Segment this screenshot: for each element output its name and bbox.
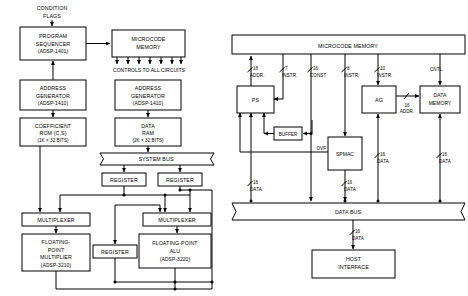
register-c-label: REGISTER <box>101 249 129 255</box>
slash-data16-dm <box>437 153 442 158</box>
ag-left-line3: (ADSP-1410) <box>38 100 69 106</box>
block-diagram-svg: CONDITION FLAGS PROGRAM SEQUENCER (ADSP-… <box>0 0 468 296</box>
junction-datamem-databus <box>439 200 442 203</box>
fp-mult-line1: FLOATING- <box>42 239 71 245</box>
bus-width-const16: 16 <box>313 66 319 71</box>
junction-ps-databus <box>250 200 253 203</box>
junction-mux-right-a <box>164 194 167 197</box>
fp-mult-line4: (ADSP-3210) <box>41 262 72 268</box>
microcode-memory-left-line2: MEMORY <box>136 44 161 50</box>
ag-right-line3: (ADSP-1410) <box>133 100 164 106</box>
bus-name-data16-spmac: DATA <box>344 187 357 192</box>
data-ram-line3: (2K × 32 BITS) <box>132 138 164 143</box>
buffer-label: BUFFER <box>279 132 298 137</box>
controls-arrows-group <box>117 57 181 64</box>
fp-mult-line3: MULTIPLIER <box>40 254 72 260</box>
bus-width-data16-mid: 16 <box>380 152 386 157</box>
ag-right-line1: ADDRESS <box>135 85 162 91</box>
ag-label: AG <box>375 97 383 103</box>
ps-label: PS <box>252 97 260 103</box>
bus-width-data16-spmac: 16 <box>347 180 353 185</box>
bus-name-const16: CONST <box>310 73 326 78</box>
bus-name-data16-dm: DATA <box>439 159 452 164</box>
fp-alu-line3: (ADSP-3220) <box>160 256 191 262</box>
bus-name-data16-mid: DATA <box>377 159 390 164</box>
microcode-memory-left-line1: MICROCODE <box>132 36 166 42</box>
host-interface-line1: HOST <box>346 256 362 262</box>
panel-right: MICROCODE MEMORY 16 ADDR. 7 INSTR. 16 CO… <box>232 35 465 278</box>
bus-name-addr16-ps: ADDR. <box>250 73 265 78</box>
bus-width-instr8: 8 <box>347 66 350 71</box>
bus-name-instr7: INSTR. <box>282 73 297 78</box>
junction-spmac-databus <box>344 200 347 203</box>
data-memory-line2: MEMORY <box>429 100 452 106</box>
slash-instr10 <box>375 68 380 73</box>
panel-left: CONDITION FLAGS PROGRAM SEQUENCER (ADSP-… <box>20 5 214 291</box>
microcode-memory-right-label: MICROCODE MEMORY <box>318 43 378 49</box>
bus-name-ovf: OVF <box>316 146 326 151</box>
data-memory-line1: DATA <box>434 92 447 98</box>
slash-const16 <box>308 68 313 73</box>
junction-buffer-const <box>310 132 313 135</box>
slash-data16-ps <box>248 181 253 186</box>
bus-width-addr16-ag: 16 <box>404 103 410 108</box>
register-a-label: REGISTER <box>110 177 138 183</box>
data-ram-line2: RAM <box>142 130 154 136</box>
condition-flags-label-line2: FLAGS <box>43 13 61 19</box>
fp-mult-line2: POINT <box>48 247 65 253</box>
coef-rom-line1: COEFFICIENT <box>35 123 72 129</box>
slash-data16-host <box>350 230 355 235</box>
junction-ag-databus <box>377 200 380 203</box>
bus-width-data16-dm: 16 <box>442 152 448 157</box>
multiplexer-left-label: MULTIPLEXER <box>37 217 75 223</box>
ag-left-line2: GENERATOR <box>36 93 70 99</box>
program-sequencer-line1: PROGRAM <box>39 33 67 39</box>
coef-rom-line3: (1K × 32 BITS) <box>37 138 69 143</box>
bus-width-addr16-ps: 16 <box>253 66 259 71</box>
register-b-label: REGISTER <box>166 177 194 183</box>
host-interface-line2: INTERFACE <box>338 264 369 270</box>
junction-regb-rail <box>179 189 182 192</box>
junction-bottom-alu <box>174 288 177 291</box>
program-sequencer-line2: SEQUENCER <box>36 41 71 47</box>
slash-data16-spmac <box>342 181 347 186</box>
data-ram-line1: DATA <box>141 123 155 129</box>
program-sequencer-line3: (ADSP-1401) <box>38 48 69 54</box>
bus-name-addr16-ag: ADDR. <box>400 109 415 114</box>
bus-name-cntl: CNTL. <box>430 67 444 72</box>
bus-width-data16-host: 16 <box>355 229 361 234</box>
bus-name-data16-ps: DATA <box>250 187 263 192</box>
slash-instr8 <box>342 68 347 73</box>
slash-instr7 <box>280 68 285 73</box>
bus-name-data16-host: DATA <box>352 236 365 241</box>
slash-data16-mid <box>375 153 380 158</box>
fp-alu-line1: FLOATING-POINT <box>152 240 198 246</box>
bus-width-instr10: 10 <box>380 66 386 71</box>
multiplexer-right-label: MULTIPLEXER <box>158 217 196 223</box>
slash-addr16-ps <box>248 68 253 73</box>
bus-name-instr10: INSTR. <box>377 73 392 78</box>
junction-regb-mux <box>189 189 192 192</box>
fp-alu-line2: ALU <box>170 248 181 254</box>
spmac-label: SPMAC <box>336 151 354 157</box>
bus-width-data16-ps: 16 <box>253 180 259 185</box>
data-bus-label: DATA BUS <box>335 209 362 215</box>
diagram-canvas: CONDITION FLAGS PROGRAM SEQUENCER (ADSP-… <box>0 0 468 296</box>
condition-flags-label-line1: CONDITION <box>37 5 68 11</box>
ag-right-line2: GENERATOR <box>131 93 165 99</box>
bus-name-instr8: INSTR. <box>344 73 359 78</box>
controls-to-all-circuits-label: CONTROLS TO ALL CIRCUITS <box>113 67 186 73</box>
system-bus-label: SYSTEM BUS <box>138 156 174 162</box>
coef-rom-line2: ROM (C,S) <box>39 130 66 136</box>
junction-alu-282 <box>174 281 177 284</box>
ag-left-line1: ADDRESS <box>40 85 67 91</box>
junction-rega-rail <box>123 194 126 197</box>
bus-width-instr7: 7 <box>285 66 288 71</box>
